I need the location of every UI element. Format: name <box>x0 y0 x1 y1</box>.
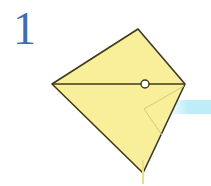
kite-diagram <box>0 0 211 186</box>
kite-paper <box>52 29 185 173</box>
pivot-point-icon <box>141 80 149 88</box>
